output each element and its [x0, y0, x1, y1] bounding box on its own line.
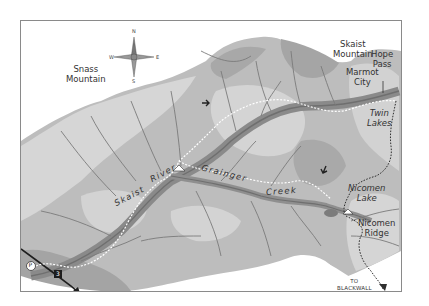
label-hope-pass: Hope Pass: [371, 49, 393, 69]
highway-number: 3: [56, 270, 60, 277]
trail-map: N S W E Snass Mountain Skaist Mountain H…: [20, 20, 402, 292]
label-creek: Creek: [266, 185, 297, 197]
compass-s-label: S: [132, 78, 135, 84]
compass-w-label: W: [109, 54, 114, 60]
label-marmot-city: Marmot City: [346, 67, 379, 87]
label-twin-lakes: Twin Lakes: [367, 108, 392, 128]
label-nicomen-ridge: Nicomen Ridge: [358, 218, 396, 238]
compass-e-label: E: [156, 54, 159, 60]
label-skaist-mountain: Skaist Mountain: [333, 39, 373, 59]
terrain-layer: [21, 21, 401, 291]
nicomen-lake: [324, 209, 338, 217]
compass-n-label: N: [132, 28, 136, 34]
label-snass-mountain: Snass Mountain: [66, 64, 106, 84]
blackwall-arrow-icon: [379, 284, 387, 291]
label-nicomen-lake: Nicomen Lake: [348, 183, 386, 203]
parking-label: P: [29, 261, 33, 268]
label-to-blackwall-peak: TO BLACKWALL PEAK: [337, 278, 372, 292]
compass-rose-icon: [114, 37, 154, 77]
